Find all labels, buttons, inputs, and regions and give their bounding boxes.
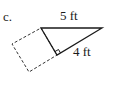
dashed-square [12,28,57,72]
figure-drawing [0,0,117,94]
side-label-top: 5 ft [60,9,78,22]
part-label: c. [3,10,12,23]
right-triangle [41,28,102,55]
side-label-leg: 4 ft [73,45,91,58]
geometry-figure: c. 5 ft 4 ft [0,0,117,94]
